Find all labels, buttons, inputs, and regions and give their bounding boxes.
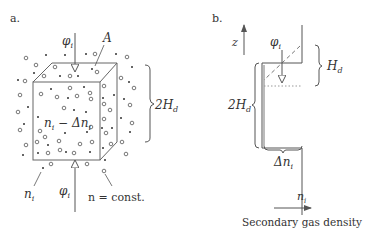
hd-label: Hd xyxy=(326,59,343,75)
particles-outside xyxy=(16,52,136,173)
ni-label: ni xyxy=(297,190,306,205)
delta-label: Δni xyxy=(273,155,293,171)
twohd-label: 2Hd xyxy=(227,98,251,114)
area-label: A xyxy=(102,31,112,45)
z-axis-label: z xyxy=(231,36,238,49)
diagram-canvas: a. xyxy=(0,0,368,236)
twohd-brace xyxy=(252,63,259,148)
outer-density-label: ni xyxy=(24,187,35,203)
height-brace xyxy=(145,65,154,142)
cube xyxy=(33,63,117,160)
delta-brace xyxy=(264,146,302,153)
const-label: n = const. xyxy=(88,191,145,204)
panel-a: a. xyxy=(10,12,178,212)
height-label: 2Hd xyxy=(154,98,178,114)
flux-label: φi xyxy=(270,35,281,51)
x-axis-label: Secondary gas density xyxy=(242,216,362,228)
panel-b: b. z φi Hd 2Hd Δni ni Secondary gas dens… xyxy=(212,12,362,228)
hd-brace xyxy=(315,45,322,86)
flux-top-label: φi xyxy=(62,34,73,50)
particles-inside-dots xyxy=(37,68,115,154)
const-leader-line xyxy=(105,174,112,186)
flux-bottom-label: φi xyxy=(59,184,70,200)
panel-a-label: a. xyxy=(10,12,20,25)
panel-b-label: b. xyxy=(212,12,223,25)
inner-density-label: ni − Δni xyxy=(44,116,91,132)
ni-leader-line xyxy=(34,172,41,186)
